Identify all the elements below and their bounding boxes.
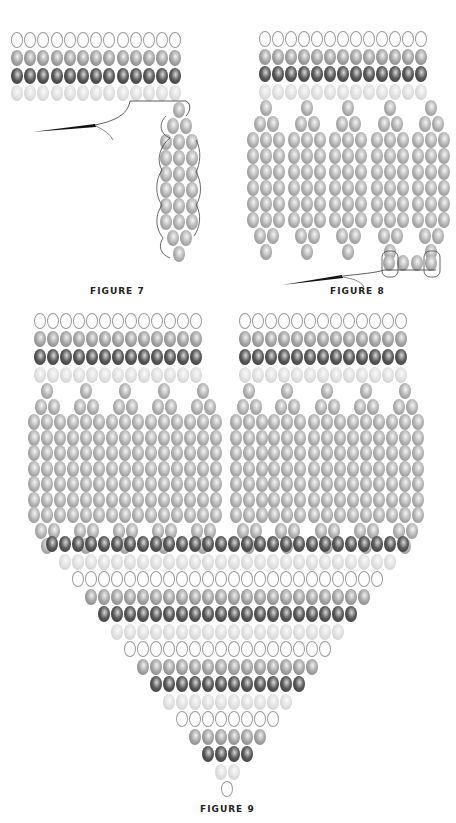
figure-8-fringe-bead [308, 116, 320, 132]
figure-8-fringe-bead [412, 180, 424, 196]
figure-9-fringe-bead [268, 492, 280, 508]
figure-8-connector-bead [383, 255, 395, 271]
figure-9-band-bead [239, 349, 251, 365]
figure-7-band-bead [24, 68, 36, 84]
figure-9-fringe-bead [67, 507, 79, 523]
figure-8-caption: FIGURE 8 [330, 286, 385, 296]
figure-9-fringe-bead [412, 476, 424, 492]
figure-7-band-bead [143, 68, 155, 84]
figure-7-band-bead [156, 50, 168, 66]
figure-9-fringe-bead [54, 492, 66, 508]
figure-8-fringe-bead [425, 196, 437, 212]
figure-9-fringe-bead [393, 399, 405, 415]
figure-9-fringe-bead [321, 430, 333, 446]
figure-8-fringe-bead [314, 180, 326, 196]
figure-8-fringe-bead [355, 132, 367, 148]
figure-8-fringe-bead [314, 196, 326, 212]
figure-8-fringe-bead [384, 148, 396, 164]
figure-9-fringe-bead [197, 492, 209, 508]
figure-9-band-bead [382, 331, 394, 347]
figure-9-band-bead [125, 349, 137, 365]
figure-9-band-bead [47, 313, 59, 329]
figure-9-fringe-bead [119, 414, 131, 430]
figure-9-band-bead [369, 367, 381, 383]
figure-9-v-bead [137, 571, 149, 587]
figure-9-fringe-bead [347, 430, 359, 446]
figure-9-fringe-bead [256, 476, 268, 492]
figure-9-band-bead [125, 367, 137, 383]
figure-9-fringe-bead [243, 492, 255, 508]
figure-9-band-bead [99, 349, 111, 365]
figure-8-band-bead [350, 31, 362, 47]
figure-9-v-bead [85, 571, 97, 587]
figure-8-fringe-bead [295, 116, 307, 132]
figure-9-v-bead [72, 571, 84, 587]
figure-9-band-bead [265, 313, 277, 329]
figure-9-v-bead [124, 641, 136, 657]
figure-8-fringe-bead [438, 212, 450, 228]
figure-9-v-bead [111, 606, 123, 622]
figure-7-fringe-bead [173, 182, 185, 198]
figure-9-v-bead [189, 571, 201, 587]
figure-9-v-bead [137, 589, 149, 605]
figure-8-band-bead [389, 66, 401, 82]
figure-9-fringe-bead [373, 445, 385, 461]
figure-8-fringe-bead [260, 148, 272, 164]
figure-7-band-bead [169, 32, 181, 48]
figure-9-fringe-bead [54, 430, 66, 446]
figure-9-fringe-bead [268, 430, 280, 446]
figure-9-v-bead [137, 641, 149, 657]
figure-9-fringe-bead [106, 476, 118, 492]
figure-8-band-bead [259, 66, 271, 82]
figure-9-fringe-bead [373, 507, 385, 523]
figure-8-fringe-bead [247, 132, 259, 148]
figure-9-v-bead [176, 536, 188, 552]
figure-9-v-bead [150, 536, 162, 552]
figure-9-fringe-bead [210, 445, 222, 461]
figure-9-v-bead [293, 554, 305, 570]
figure-8-connector-bead [425, 255, 437, 271]
figure-9-v-bead [332, 589, 344, 605]
figure-7-band-bead [37, 50, 49, 66]
figure-9-v-bead [228, 711, 240, 727]
figure-9-v-bead [215, 676, 227, 692]
figure-9-fringe-bead [80, 492, 92, 508]
figure-9-v-bead [241, 589, 253, 605]
figure-9-fringe-bead [119, 430, 131, 446]
figure-9-v-bead [215, 624, 227, 640]
figure-9-v-bead [254, 711, 266, 727]
figure-9-v-bead [267, 536, 279, 552]
figure-9-v-bead [176, 659, 188, 675]
figure-8-connector-bead [411, 255, 423, 271]
figure-7-fringe-bead [180, 230, 192, 246]
figure-9-v-bead [189, 711, 201, 727]
figure-9-band-bead [60, 367, 72, 383]
figure-9-band-bead [47, 331, 59, 347]
figure-9-v-bead [124, 606, 136, 622]
figure-9-v-bead [241, 641, 253, 657]
figure-9-fringe-bead [308, 461, 320, 477]
figure-8-fringe-bead [438, 196, 450, 212]
figure-9-v-bead [189, 729, 201, 745]
figure-9-band-bead [164, 313, 176, 329]
figure-8-fringe-bead [355, 196, 367, 212]
figure-9-fringe-bead [237, 399, 249, 415]
figure-9-v-bead [319, 571, 331, 587]
figure-9-fringe-bead [373, 414, 385, 430]
figure-9-fringe-bead [197, 445, 209, 461]
figure-8-band-bead [363, 66, 375, 82]
figure-8-fringe-bead [260, 100, 272, 116]
figure-7-band-bead [156, 85, 168, 101]
figure-9-v-bead [215, 589, 227, 605]
figure-8-fringe-bead [301, 244, 313, 260]
figure-7-band-bead [117, 85, 129, 101]
figure-9-v-bead [176, 554, 188, 570]
figure-9-fringe-bead [184, 507, 196, 523]
figure-9-band-bead [382, 349, 394, 365]
figure-8-fringe-bead [342, 196, 354, 212]
figure-9-fringe-bead [412, 430, 424, 446]
figure-9-v-bead [163, 641, 175, 657]
figure-8-band-bead [311, 49, 323, 65]
figure-7-band-bead [103, 32, 115, 48]
figure-9-band-bead [112, 367, 124, 383]
